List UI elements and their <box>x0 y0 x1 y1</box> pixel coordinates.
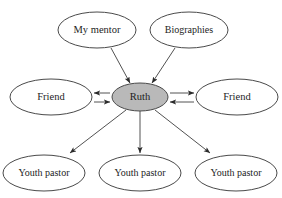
node-friend-left[interactable]: Friend <box>10 79 92 115</box>
node-label-youth-pastor-right: Youth pastor <box>211 167 263 178</box>
node-label-ruth: Ruth <box>130 91 151 102</box>
node-label-biographies: Biographies <box>165 24 213 35</box>
node-youth-pastor-left[interactable]: Youth pastor <box>3 155 85 191</box>
concept-map-canvas: My mentorBiographiesFriendFriendYouth pa… <box>0 0 282 198</box>
node-label-youth-pastor-left: Youth pastor <box>19 167 71 178</box>
edge-biographies-to-ruth <box>152 48 175 83</box>
node-my-mentor[interactable]: My mentor <box>58 12 136 48</box>
node-youth-pastor-center[interactable]: Youth pastor <box>99 155 181 191</box>
edge-my-mentor-to-ruth <box>111 48 130 83</box>
node-label-my-mentor: My mentor <box>74 24 121 35</box>
node-ruth[interactable]: Ruth <box>112 83 168 111</box>
node-friend-right[interactable]: Friend <box>196 79 278 115</box>
node-label-friend-right: Friend <box>223 91 251 102</box>
concept-map-diagram: My mentorBiographiesFriendFriendYouth pa… <box>0 0 282 198</box>
node-biographies[interactable]: Biographies <box>150 12 228 48</box>
node-label-friend-left: Friend <box>37 91 65 102</box>
edge-ruth-to-youth-pastor-right <box>155 110 210 153</box>
node-label-youth-pastor-center: Youth pastor <box>115 167 167 178</box>
nodes-layer: My mentorBiographiesFriendFriendYouth pa… <box>3 12 278 191</box>
node-youth-pastor-right[interactable]: Youth pastor <box>195 155 277 191</box>
edge-ruth-to-youth-pastor-left <box>70 110 126 153</box>
